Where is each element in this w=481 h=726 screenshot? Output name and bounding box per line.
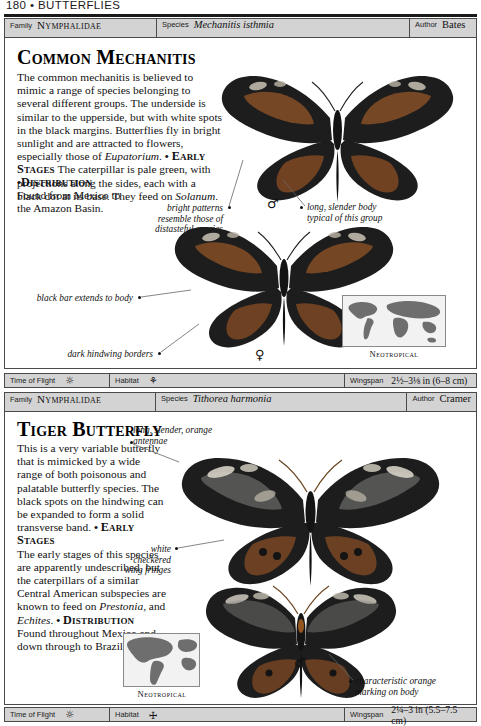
bullet-early-1: • [165, 150, 172, 162]
entry-body-1: Common Mechanitis The common mechanitis … [5, 38, 476, 368]
family-value-2: Nymphalidae [37, 393, 101, 405]
footer-bar-1: Time of Flight ☼ Habitat ⚘ Wingspan 2½–3… [4, 373, 477, 388]
bullet-early-2: • [94, 521, 101, 533]
running-head: 180 • BUTTERFLIES [6, 0, 120, 11]
author-value-1: Bates [442, 19, 465, 30]
early-italic-2: Prestonia [99, 600, 143, 612]
habitat-label-1: Habitat [115, 376, 139, 385]
female-symbol-1: ♀ [255, 347, 265, 362]
leader-line-a2 [133, 442, 181, 466]
distribution-text-1: Found from Mexico to the Amazon Basin. [17, 189, 120, 214]
family-label-1: Family [10, 21, 32, 30]
time-of-flight-cell-1: Time of Flight ☼ [5, 374, 110, 387]
time-of-flight-label-1: Time of Flight [10, 376, 55, 385]
sun-icon-2: ☼ [65, 709, 74, 720]
leader-line-b2 [178, 538, 226, 552]
wingspan-cell-2: Wingspan 2¼–3 in (5.5–7.5 cm) [345, 708, 476, 721]
family-label-2: Family [10, 395, 32, 404]
male-symbol-2: ♂ [294, 655, 306, 670]
species-entry-1: Family Nymphalidae Species Mechanitis is… [4, 18, 477, 369]
entry-body-2: Tiger Butterfly This is a very variable … [5, 412, 476, 704]
male-symbol-1: ♂ [267, 196, 279, 211]
habitat-cell-1: Habitat ⚘ [110, 374, 345, 387]
time-of-flight-label-2: Time of Flight [10, 710, 55, 719]
annotation-orange-marking-2: characteristic orange marking on body [355, 676, 460, 697]
leader-line-c2 [327, 652, 355, 684]
desc-italic-1: Eupatorium [105, 150, 159, 162]
author-cell-1: Author Bates [410, 19, 476, 37]
wingspan-cell-1: Wingspan 2½–3⅛ in (6–8 cm) [345, 374, 476, 387]
distribution-map-1 [342, 295, 446, 347]
identification-bar-1: Family Nymphalidae Species Mechanitis is… [5, 19, 476, 38]
family-cell-1: Family Nymphalidae [5, 19, 157, 37]
annotation-black-bar-1: black bar extends to body [25, 293, 133, 304]
leader-line-d1 [161, 322, 203, 356]
leaf-icon-2: 🜊 [149, 704, 157, 725]
species-cell-2: Species Tithorea harmonia [156, 393, 407, 411]
family-cell-2: Family Nymphalidae [5, 393, 156, 411]
author-label-2: Author [412, 394, 434, 403]
family-value-1: Nymphalidae [37, 19, 101, 31]
habitat-cell-2: Habitat 🜊 [110, 708, 345, 721]
distribution-block-1: •Distribution Found from Mexico to the A… [17, 176, 127, 216]
desc-tail-1: . [159, 150, 162, 162]
species-cell-1: Species Mechanitis isthmia [157, 19, 410, 37]
leader-line-a1 [227, 158, 257, 208]
species-label-1: Species [162, 20, 189, 29]
specimen-upperside-2 [155, 452, 455, 592]
identification-bar-2: Family Nymphalidae Species Tithorea harm… [5, 393, 476, 412]
forest-tree-icon-1: ⚘ [149, 375, 158, 386]
world-map-svg-2 [124, 634, 199, 686]
species-entry-2: Family Nymphalidae Species Tithorea harm… [4, 392, 477, 705]
author-value-2: Cramer [440, 393, 472, 404]
habitat-label-2: Habitat [115, 710, 139, 719]
footer-bar-2: Time of Flight ☼ Habitat 🜊 Wingspan 2¼–3… [4, 707, 477, 722]
annotation-white-fringes-2: white checkered wing fringes [113, 544, 171, 576]
early-italic2-2: Echites [17, 614, 51, 626]
wingspan-label-1: Wingspan [350, 376, 383, 385]
entry-title-1: Common Mechanitis [17, 46, 196, 69]
species-value-2: Tithorea harmonia [193, 393, 272, 404]
wingspan-value-1: 2½–3⅛ in (6–8 cm) [391, 375, 467, 386]
leader-line-c1 [141, 286, 193, 302]
annotation-dark-borders-1: dark hindwing borders [35, 349, 153, 360]
distribution-heading-2: Distribution [63, 613, 134, 627]
distribution-map-2 [123, 633, 200, 687]
world-map-svg-1 [343, 296, 445, 346]
early-mid-2: , and [143, 600, 165, 612]
leader-line-b1 [281, 178, 307, 210]
distribution-heading-1: Distribution [21, 175, 92, 189]
author-label-1: Author [415, 20, 437, 29]
author-cell-2: Author Cramer [407, 393, 476, 411]
header-rule [4, 14, 477, 17]
species-value-1: Mechanitis isthmia [194, 19, 274, 30]
map-label-2: Neotropical [117, 689, 207, 699]
species-label-2: Species [161, 394, 188, 403]
time-of-flight-cell-2: Time of Flight ☼ [5, 708, 110, 721]
sun-icon-1: ☼ [65, 375, 74, 386]
wingspan-label-2: Wingspan [350, 710, 383, 719]
wingspan-value-2: 2¼–3 in (5.5–7.5 cm) [391, 704, 471, 726]
early-tail-2: . [51, 614, 54, 626]
map-label-1: Neotropical [342, 349, 446, 359]
